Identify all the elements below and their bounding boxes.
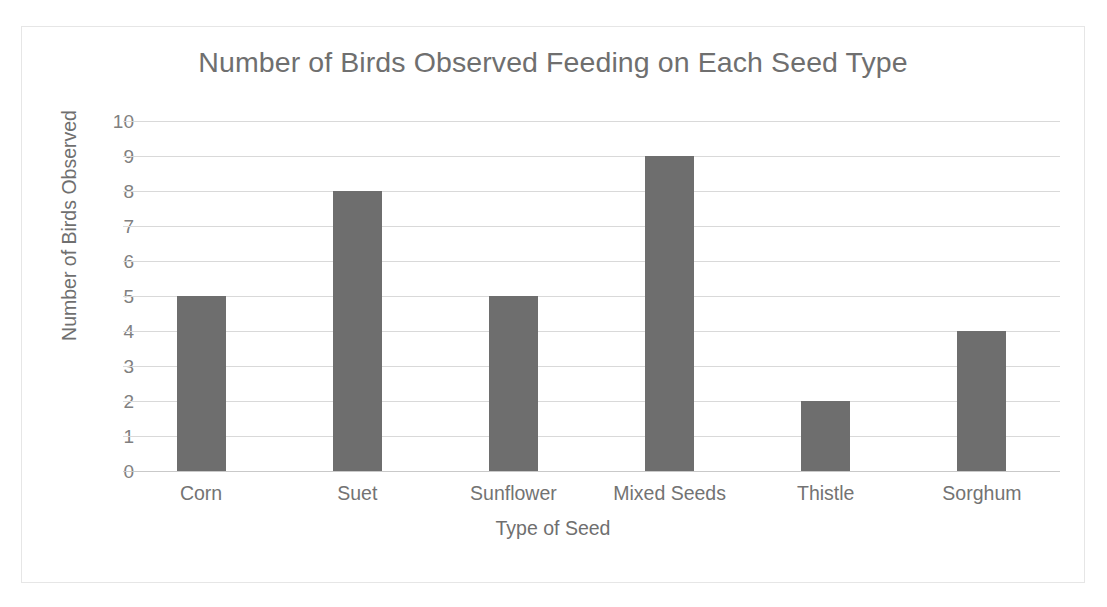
gridline-7 <box>123 226 1060 227</box>
x-tick-label-suet: Suet <box>337 482 377 505</box>
gridline-4 <box>123 331 1060 332</box>
chart-title: Number of Birds Observed Feeding on Each… <box>22 46 1084 79</box>
x-tick-label-thistle: Thistle <box>797 482 854 505</box>
bar-sorghum[interactable] <box>957 331 1006 471</box>
bar-sunflower[interactable] <box>489 296 538 471</box>
x-tick-label-mixed-seeds: Mixed Seeds <box>613 482 726 505</box>
gridline-6 <box>123 261 1060 262</box>
x-tick-label-sorghum: Sorghum <box>942 482 1021 505</box>
bar-corn[interactable] <box>177 296 226 471</box>
bar-mixed-seeds[interactable] <box>645 156 694 471</box>
chart-container: Number of Birds Observed Feeding on Each… <box>21 26 1085 583</box>
x-tick-label-sunflower: Sunflower <box>470 482 557 505</box>
gridline-0 <box>123 471 1060 472</box>
gridline-5 <box>123 296 1060 297</box>
gridline-2 <box>123 401 1060 402</box>
plot-area <box>123 121 1060 471</box>
gridline-1 <box>123 436 1060 437</box>
gridline-9 <box>123 156 1060 157</box>
x-tick-label-corn: Corn <box>180 482 222 505</box>
bar-suet[interactable] <box>333 191 382 471</box>
x-axis-title: Type of Seed <box>22 517 1084 540</box>
gridline-8 <box>123 191 1060 192</box>
bar-thistle[interactable] <box>801 401 850 471</box>
gridline-3 <box>123 366 1060 367</box>
gridline-10 <box>123 121 1060 122</box>
x-axis-tick-labels: CornSuetSunflowerMixed SeedsThistleSorgh… <box>123 482 1060 510</box>
